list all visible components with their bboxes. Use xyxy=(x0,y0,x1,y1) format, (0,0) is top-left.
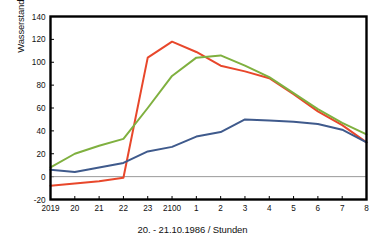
plot-frame xyxy=(51,17,367,200)
x-axis-title: 20. - 21.10.1986 / Stunden xyxy=(0,224,385,235)
x-tick-label-group: 201920212223210012345678 xyxy=(41,204,369,213)
x-tick-label: 21 xyxy=(95,204,105,213)
x-tick-label: 4 xyxy=(267,204,272,213)
x-tick-label: 20 xyxy=(70,204,80,213)
x-tick-label: 3 xyxy=(243,204,248,213)
x-tick-label: 2 xyxy=(218,204,223,213)
x-tick-label: 2019 xyxy=(41,204,60,213)
y-tick-label-group: 140120100806040200-20 xyxy=(32,13,46,205)
y-tick-label: 80 xyxy=(36,81,46,90)
data-series-line-red xyxy=(51,42,367,186)
y-tick-label: 40 xyxy=(36,127,46,136)
x-tick-label: 8 xyxy=(364,204,369,213)
y-tick-label: 60 xyxy=(36,104,46,113)
x-tick-label: 5 xyxy=(291,204,296,213)
y-tick-label: 20 xyxy=(36,150,46,159)
x-tick-label: 22 xyxy=(119,204,129,213)
y-tick-label: 100 xyxy=(32,58,46,67)
x-tick-label: 6 xyxy=(316,204,321,213)
x-tick-label: 23 xyxy=(143,204,153,213)
x-tick-label: 2100 xyxy=(163,204,182,213)
tick-mark-group xyxy=(51,17,367,200)
y-tick-label: 0 xyxy=(41,173,46,182)
line-chart-plot: 140120100806040200-20 201920212223210012… xyxy=(0,0,385,242)
y-tick-label: 140 xyxy=(32,13,46,22)
x-tick-label: 7 xyxy=(340,204,345,213)
chart-figure: Wasserstand ü. NN/cm 140120100806040200-… xyxy=(0,0,385,242)
y-tick-label: 120 xyxy=(32,35,46,44)
x-tick-label: 1 xyxy=(194,204,199,213)
data-series-group xyxy=(51,42,367,186)
